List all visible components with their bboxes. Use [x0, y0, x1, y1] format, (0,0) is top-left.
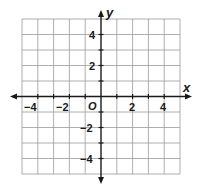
x-tick-label-pos4: 4	[160, 101, 167, 113]
x-tick-label-pos2: 2	[129, 101, 135, 113]
x-tick-label-neg2: −2	[56, 101, 69, 113]
coordinate-plane: x y O −4 −2 2 4 4 2 −2 −4	[0, 0, 197, 189]
y-tick-label-neg4: −4	[80, 153, 93, 165]
x-axis-label: x	[182, 80, 191, 95]
y-tick-label-pos2: 2	[89, 60, 95, 72]
origin-label: O	[88, 100, 97, 112]
y-axis-top-arrow-icon	[98, 10, 104, 17]
x-axis-left-arrow-icon	[10, 94, 17, 100]
x-tick-label-neg4: −4	[24, 101, 37, 113]
y-tick-label-pos4: 4	[89, 29, 96, 41]
y-axis-bottom-arrow-icon	[98, 177, 104, 184]
y-tick-label-neg2: −2	[80, 122, 93, 134]
y-axis-label: y	[105, 5, 114, 20]
